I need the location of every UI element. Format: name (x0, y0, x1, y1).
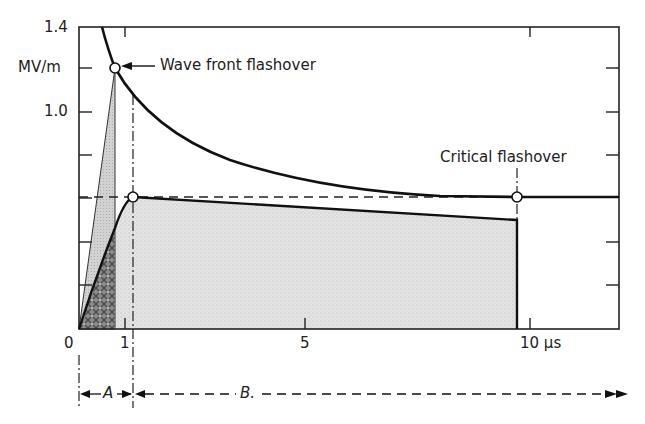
region-a-left-arrowhead-icon (80, 390, 90, 398)
wave-front-flashover-annotation: Wave front flashover (160, 58, 316, 73)
y-ticks-right (606, 68, 619, 285)
region-b-right-arrowhead-icon (605, 390, 617, 398)
region-a-right-arrowhead-icon (122, 390, 132, 398)
region-b-left-arrowhead-icon (135, 390, 145, 398)
x-tick-label-0: 0 (64, 336, 74, 351)
y-tick-label-1-0: 1.0 (44, 104, 68, 119)
region-a-label: A (103, 386, 113, 401)
y-tick-label-1-4: 1.4 (44, 20, 68, 35)
wave-front-point (110, 63, 120, 73)
wave-front-arrowhead-icon (121, 62, 132, 70)
region-b-label: B. (240, 386, 255, 401)
crest-point (128, 192, 138, 202)
critical-point (512, 192, 522, 202)
chart-canvas (0, 0, 645, 424)
x-tick-label-10-us: 10 µs (520, 336, 561, 351)
y-axis-unit-label: MV/m (18, 60, 61, 75)
volt-time-curve (102, 27, 619, 197)
critical-flashover-annotation: Critical flashover (440, 150, 567, 165)
region-b-right-arrowhead-icon-2 (616, 390, 628, 398)
x-tick-label-1: 1 (120, 336, 130, 351)
x-tick-label-5: 5 (300, 336, 310, 351)
